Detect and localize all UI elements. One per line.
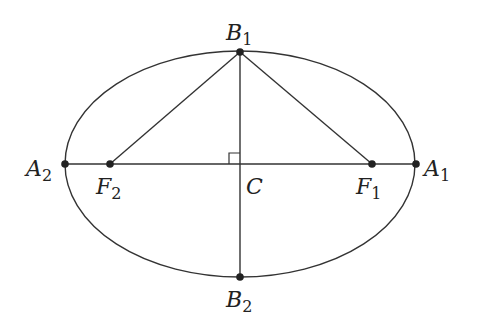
label-a2: A2 — [24, 156, 52, 185]
segment-b1-f2 — [110, 52, 240, 164]
point-b2 — [236, 273, 244, 281]
point-f2 — [106, 160, 114, 168]
ellipse-diagram: A1A2B1B2F1F2C — [0, 0, 479, 331]
label-f2: F2 — [95, 174, 121, 203]
segment-b1-f1 — [240, 52, 372, 164]
label-c: C — [246, 174, 263, 199]
label-b2: B2 — [225, 287, 252, 316]
point-a2 — [61, 160, 69, 168]
point-f1 — [368, 160, 376, 168]
point-a1 — [412, 160, 420, 168]
point-b1 — [236, 48, 244, 56]
segments — [65, 52, 416, 277]
right-angle-marker — [229, 153, 240, 164]
label-f1: F1 — [355, 174, 381, 203]
label-b1: B1 — [225, 20, 252, 49]
point-labels: A1A2B1B2F1F2C — [24, 20, 450, 316]
label-a1: A1 — [422, 156, 450, 185]
